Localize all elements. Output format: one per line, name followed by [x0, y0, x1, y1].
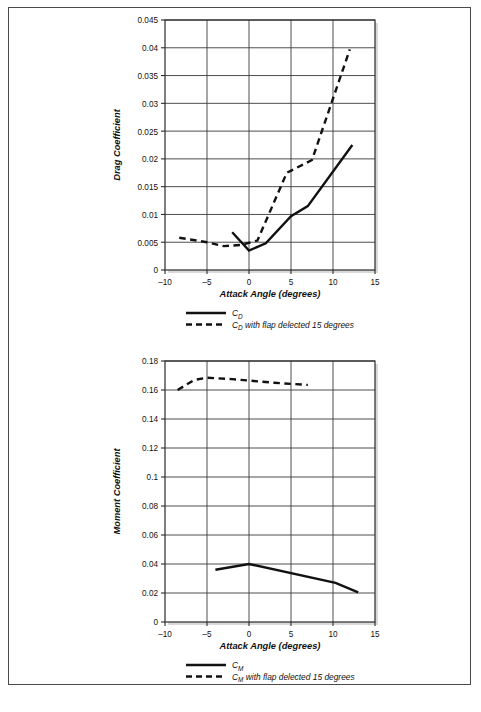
x-axis-tick-label: 0	[247, 278, 252, 287]
y-axis-tick-label: 0	[153, 618, 158, 627]
y-axis-tick-label: 0.1	[147, 473, 159, 482]
y-axis-tick-label: 0.14	[142, 415, 158, 424]
y-axis-tick-label: 0.035	[138, 72, 159, 81]
y-axis-tick-label: 0.18	[142, 357, 158, 366]
x-axis-tick-label: 10	[328, 630, 338, 639]
y-axis-tick-label: 0.005	[138, 239, 159, 248]
y-axis-tick-label: 0.015	[138, 183, 159, 192]
y-axis-tick-label: 0.08	[142, 502, 158, 511]
figure-page: 00.0050.010.0150.020.0250.030.0350.040.0…	[0, 0, 481, 712]
x-axis-tick-label: 10	[328, 278, 338, 287]
plot-background	[165, 20, 375, 270]
legend-label: CD with flap delected 15 degrees	[232, 320, 355, 331]
y-axis-tick-label: 0.04	[142, 44, 158, 53]
y-axis-tick-label: 0.16	[142, 386, 158, 395]
x-axis-title: Attack Angle (degrees)	[219, 641, 321, 651]
y-axis-tick-label: 0.04	[142, 560, 158, 569]
y-axis-tick-label: 0.01	[142, 211, 158, 220]
charts-canvas: 00.0050.010.0150.020.0250.030.0350.040.0…	[0, 0, 481, 712]
x-axis-title: Attack Angle (degrees)	[219, 289, 321, 299]
legend-label: CM with flap delected 15 degrees	[232, 672, 355, 683]
moment-coefficient-chart: 00.020.040.060.080.10.120.140.160.18–10–…	[112, 357, 380, 683]
x-axis-tick-label: 5	[289, 630, 294, 639]
plot-background	[165, 361, 375, 622]
y-axis-tick-label: 0.03	[142, 100, 158, 109]
x-axis-tick-label: 15	[370, 278, 380, 287]
x-axis-tick-label: –10	[158, 278, 172, 287]
y-axis-tick-label: 0.02	[142, 155, 158, 164]
legend-label-subscript: D	[238, 313, 243, 320]
legend-label-rest: with flap delected 15 degrees	[243, 672, 355, 682]
y-axis-tick-label: 0.045	[138, 16, 159, 25]
x-axis-tick-label: –5	[202, 278, 212, 287]
x-axis-tick-label: –5	[202, 630, 212, 639]
x-axis-tick-label: 15	[370, 630, 380, 639]
legend-label: CD	[232, 308, 243, 319]
x-axis-tick-label: 5	[289, 278, 294, 287]
y-axis-title: Moment Coefficient	[112, 448, 122, 535]
y-axis-tick-label: 0.025	[138, 128, 159, 137]
y-axis-tick-label: 0	[153, 266, 158, 275]
legend-label-subscript: M	[238, 665, 244, 672]
y-axis-tick-label: 0.02	[142, 589, 158, 598]
x-axis-tick-label: –10	[158, 630, 172, 639]
legend-label: CM	[232, 660, 244, 671]
y-axis-title: Drag Coefficient	[112, 108, 122, 181]
x-axis-tick-label: 0	[247, 630, 252, 639]
y-axis-tick-label: 0.06	[142, 531, 158, 540]
legend-label-rest: with flap delected 15 degrees	[243, 320, 355, 330]
y-axis-tick-label: 0.12	[142, 444, 158, 453]
drag-coefficient-chart: 00.0050.010.0150.020.0250.030.0350.040.0…	[112, 16, 380, 331]
